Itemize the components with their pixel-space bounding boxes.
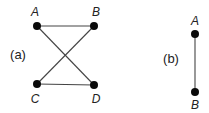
node-a [191,30,199,38]
edge-c-d [37,84,94,85]
diagram-canvas: (a) A B C D (b) A B [0,0,209,113]
node-b-label: B [191,98,199,112]
node-a-label: A [30,5,39,19]
node-a-label: A [190,14,199,28]
node-b [90,22,98,30]
node-c-label: C [31,92,40,106]
node-b-label: B [92,5,100,19]
node-a [33,22,41,30]
node-b [191,88,199,96]
node-d-label: D [92,92,101,106]
panel-a-label: (a) [10,47,26,62]
panel-b: (b) A B [163,14,199,112]
node-c [33,80,41,88]
panel-a: (a) A B C D [10,5,101,106]
panel-b-label: (b) [163,51,179,66]
node-d [90,81,98,89]
